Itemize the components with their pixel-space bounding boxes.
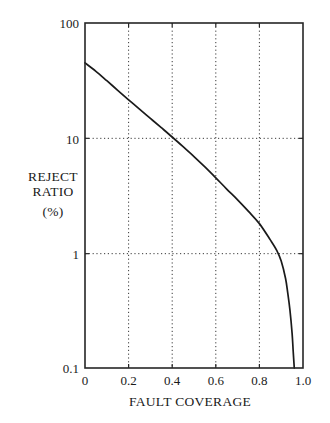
- x-tick-label-0.2: 0.2: [120, 373, 136, 388]
- x-tick-label-0.4: 0.4: [164, 373, 181, 388]
- y-tick-label-100: 100: [60, 16, 80, 31]
- y-axis-title-line-2: RATIO: [32, 184, 73, 199]
- y-tick-label-1: 1: [73, 247, 80, 262]
- x-tick-label-0: 0: [82, 373, 89, 388]
- x-tick-label-0.8: 0.8: [251, 373, 267, 388]
- chart-page: 100 10 1 0.1 0 0.2 0.4 0.6 0.8 1.0 REJEC…: [0, 0, 330, 423]
- y-axis-title-line-1: REJECT: [28, 169, 78, 184]
- y-tick-label-0.1: 0.1: [63, 361, 79, 376]
- x-tick-label-0.6: 0.6: [208, 373, 225, 388]
- reject-ratio-vs-fault-coverage-chart: 100 10 1 0.1 0 0.2 0.4 0.6 0.8 1.0 REJEC…: [0, 0, 330, 423]
- y-axis-title-line-3: (%): [42, 204, 63, 219]
- y-tick-label-10: 10: [66, 132, 79, 147]
- x-axis-title: FAULT COVERAGE: [129, 394, 251, 409]
- x-tick-label-1.0: 1.0: [295, 373, 311, 388]
